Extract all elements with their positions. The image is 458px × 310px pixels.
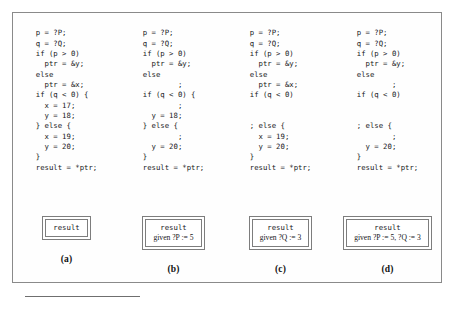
figure-frame: p = ?P; q = ?Q; if (p > 0) ptr = &y; els… xyxy=(12,12,442,283)
result-box-d-title: result xyxy=(354,223,421,233)
variant-column-b: p = ?P; q = ?Q; if (p > 0) ptr = &y; els… xyxy=(120,13,227,274)
variant-column-c: p = ?P; q = ?Q; if (p > 0) ptr = &y; els… xyxy=(227,13,334,274)
variant-column-a: p = ?P; q = ?Q; if (p > 0) ptr = &y; els… xyxy=(13,13,120,264)
result-box-b-title: result xyxy=(153,223,193,233)
result-box-c-title: result xyxy=(260,223,302,233)
caption-c: (c) xyxy=(275,264,286,274)
result-box-c-inner: result given ?Q := 3 xyxy=(252,219,310,247)
result-box-b-inner: result given ?P := 5 xyxy=(145,219,201,247)
result-box-a-title: result xyxy=(53,223,79,233)
caption-a: (a) xyxy=(61,254,73,264)
caption-d: (d) xyxy=(381,264,393,274)
result-box-d-inner: result given ?P := 5, ?Q := 3 xyxy=(346,219,429,247)
code-listing-c: p = ?P; q = ?Q; if (p > 0) ptr = &y; els… xyxy=(250,28,312,204)
footnote-separator-rule xyxy=(25,296,140,297)
result-box-a: result xyxy=(42,216,90,240)
result-box-a-inner: result xyxy=(45,219,87,237)
code-listing-b: p = ?P; q = ?Q; if (p > 0) ptr = &y; els… xyxy=(143,28,205,204)
result-box-c: result given ?Q := 3 xyxy=(249,216,313,250)
code-listing-a: p = ?P; q = ?Q; if (p > 0) ptr = &y; els… xyxy=(36,28,98,204)
code-variant-columns: p = ?P; q = ?Q; if (p > 0) ptr = &y; els… xyxy=(13,13,441,282)
code-listing-d: p = ?P; q = ?Q; if (p > 0) ptr = &y; els… xyxy=(357,28,419,204)
variant-column-d: p = ?P; q = ?Q; if (p > 0) ptr = &y; els… xyxy=(334,13,441,274)
result-box-b: result given ?P := 5 xyxy=(142,216,204,250)
result-box-c-given: given ?Q := 3 xyxy=(260,233,302,243)
result-box-d-given: given ?P := 5, ?Q := 3 xyxy=(354,233,421,243)
caption-b: (b) xyxy=(167,264,179,274)
result-box-b-given: given ?P := 5 xyxy=(153,233,193,243)
result-box-d: result given ?P := 5, ?Q := 3 xyxy=(343,216,432,250)
